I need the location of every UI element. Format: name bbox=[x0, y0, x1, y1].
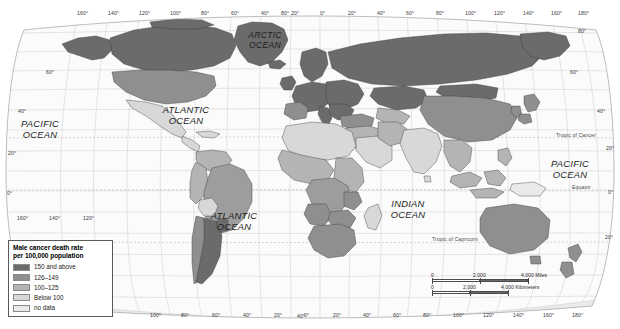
scalebar-miles-tick-0 bbox=[432, 278, 433, 284]
legend-row-1: 126–149 bbox=[13, 274, 108, 282]
legend-row-4: no data bbox=[13, 304, 108, 312]
region-sri-lanka bbox=[424, 176, 431, 182]
legend-label-0: 150 and above bbox=[34, 263, 76, 271]
longitude-label-top-2: 120° bbox=[139, 11, 150, 16]
ocean-label-pacific-ocean-east: PACIFICOCEAN bbox=[536, 158, 604, 180]
scalebar-miles-segment-0 bbox=[432, 279, 480, 282]
latitude-label-left-1: 40° bbox=[18, 109, 26, 114]
longitude-label-bottom-13: 160° bbox=[543, 313, 554, 318]
longitude-label-top-7: 20° bbox=[291, 11, 299, 16]
longitude-label-bottom-12: 140° bbox=[513, 313, 524, 318]
longitude-label-bottom-3: 40° bbox=[243, 313, 251, 318]
ocean-label-line1: PACIFIC bbox=[6, 118, 74, 129]
scalebar-kilometers-track bbox=[432, 291, 548, 295]
latitude-label-left-0: 60° bbox=[46, 70, 54, 75]
legend-swatch-1 bbox=[13, 274, 30, 281]
latitude-label-right-2: 20° bbox=[606, 146, 614, 151]
longitude-label-bottom-11: 120° bbox=[483, 313, 494, 318]
longitude-label-lowerleft-1: 140° bbox=[49, 216, 60, 221]
ocean-label-line1: ARCTIC bbox=[231, 30, 299, 40]
ocean-label-atlantic-ocean-south: ATLANTICOCEAN bbox=[200, 210, 268, 232]
ocean-label-line2: OCEAN bbox=[152, 115, 220, 126]
longitude-label-top-12: 80° bbox=[436, 11, 444, 16]
scalebar-miles-tick-2 bbox=[528, 278, 529, 284]
longitude-label-bottom-6: 20° bbox=[333, 313, 341, 318]
longitude-label-top-4: 80° bbox=[201, 11, 209, 16]
latitude-label-left-2: 20° bbox=[8, 151, 16, 156]
ocean-label-line2: OCEAN bbox=[536, 169, 604, 180]
longitude-label-top-5: 60° bbox=[231, 11, 239, 16]
latitude-label-extra-2: 40° bbox=[297, 314, 305, 319]
latitude-label-right-3: 0° bbox=[608, 190, 613, 195]
map-legend: Male cancer death rate per 100,000 popul… bbox=[8, 240, 113, 317]
legend-swatch-4 bbox=[13, 305, 30, 312]
legend-row-0: 150 and above bbox=[13, 263, 108, 271]
ocean-label-pacific-ocean-west: PACIFICOCEAN bbox=[6, 118, 74, 140]
legend-label-2: 100–125 bbox=[34, 284, 59, 292]
scalebar-miles-segment-1 bbox=[480, 279, 528, 282]
ocean-label-line2: OCEAN bbox=[374, 209, 442, 220]
scalebar-kilometers-tick-1 bbox=[470, 290, 471, 296]
latitude-label-extra-0: 80° bbox=[281, 11, 289, 16]
longitude-label-top-11: 60° bbox=[406, 11, 414, 16]
longitude-label-top-9: 20° bbox=[348, 11, 356, 16]
ocean-label-line1: ATLANTIC bbox=[200, 210, 268, 221]
legend-items: 150 and above126–149100–125Below 100no d… bbox=[13, 263, 108, 312]
legend-title-line2: per 100,000 population bbox=[13, 252, 108, 260]
scalebar-kilometers-tick-2 bbox=[508, 290, 509, 296]
longitude-label-bottom-14: 180° bbox=[572, 313, 583, 318]
longitude-label-top-13: 100° bbox=[465, 11, 476, 16]
legend-title: Male cancer death rate per 100,000 popul… bbox=[13, 244, 108, 260]
legend-label-1: 126–149 bbox=[34, 274, 59, 282]
label-tropic-of-capricorn: Tropic of Capricorn bbox=[432, 236, 478, 242]
legend-swatch-2 bbox=[13, 284, 30, 291]
legend-label-4: no data bbox=[34, 304, 55, 312]
longitude-label-bottom-7: 40° bbox=[363, 313, 371, 318]
label-equator: Equator bbox=[572, 184, 591, 190]
ocean-label-arctic-ocean: ARCTICOCEAN bbox=[231, 30, 299, 50]
longitude-label-bottom-0: 100° bbox=[150, 313, 161, 318]
longitude-label-top-0: 160° bbox=[77, 11, 88, 16]
longitude-label-top-17: 180° bbox=[578, 11, 589, 16]
ocean-label-line2: OCEAN bbox=[6, 129, 74, 140]
scalebar-kilometers-tick-0 bbox=[432, 290, 433, 296]
scalebar-kilometers-segment-1 bbox=[470, 291, 508, 294]
longitude-label-top-14: 120° bbox=[494, 11, 505, 16]
legend-row-2: 100–125 bbox=[13, 284, 108, 292]
label-tropic-of-cancer: Tropic of Cancer bbox=[556, 132, 596, 138]
scalebar-miles-labels: 02,0004,000 Miles bbox=[432, 272, 552, 279]
legend-row-3: Below 100 bbox=[13, 294, 108, 302]
longitude-label-top-6: 40° bbox=[261, 11, 269, 16]
longitude-label-bottom-4: 20° bbox=[274, 313, 282, 318]
latitude-label-right-0: 60° bbox=[570, 70, 578, 75]
legend-swatch-0 bbox=[13, 264, 30, 271]
world-map-figure: 160°140°120°100°80°60°40°20°0°20°40°60°8… bbox=[0, 0, 620, 329]
longitude-label-lowerleft-2: 120° bbox=[83, 216, 94, 221]
longitude-label-top-10: 40° bbox=[377, 11, 385, 16]
longitude-label-bottom-9: 80° bbox=[423, 313, 431, 318]
ocean-label-line1: ATLANTIC bbox=[152, 104, 220, 115]
latitude-label-right-1: 40° bbox=[597, 109, 605, 114]
longitude-label-top-8: 0° bbox=[320, 11, 325, 16]
longitude-label-bottom-1: 80° bbox=[181, 313, 189, 318]
ocean-label-line1: INDIAN bbox=[374, 198, 442, 209]
scalebar-miles-label-2: 4,000 Miles bbox=[521, 272, 547, 278]
scalebar-miles-tick-1 bbox=[480, 278, 481, 284]
longitude-label-bottom-2: 60° bbox=[212, 313, 220, 318]
ocean-label-atlantic-ocean-north: ATLANTICOCEAN bbox=[152, 104, 220, 126]
longitude-label-top-15: 140° bbox=[523, 11, 534, 16]
scalebar-kilometers-label-2: 4,000 Kilometers bbox=[501, 284, 539, 290]
scalebar-kilometers-segment-0 bbox=[432, 291, 470, 294]
latitude-label-left-3: 0° bbox=[7, 191, 12, 196]
longitude-label-bottom-10: 100° bbox=[453, 313, 464, 318]
region-tasmania bbox=[530, 256, 541, 264]
legend-swatch-3 bbox=[13, 294, 30, 301]
longitude-label-top-1: 140° bbox=[108, 11, 119, 16]
map-scalebar: 02,0004,000 Miles 02,0004,000 Kilometers bbox=[432, 272, 552, 295]
scalebar-miles-track bbox=[432, 279, 548, 283]
longitude-label-top-16: 160° bbox=[551, 11, 562, 16]
legend-title-line1: Male cancer death rate bbox=[13, 244, 108, 252]
latitude-label-right-4: 20° bbox=[605, 235, 613, 240]
ocean-label-indian-ocean: INDIANOCEAN bbox=[374, 198, 442, 220]
latitude-label-extra-1: 80° bbox=[578, 29, 586, 34]
